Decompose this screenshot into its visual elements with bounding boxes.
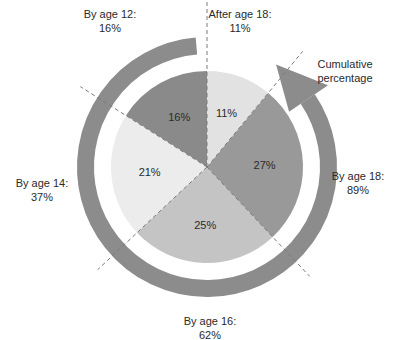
outer-label: 37%: [31, 191, 53, 203]
outer-label: By age 16:: [184, 315, 237, 327]
slice-value-label: 11%: [216, 107, 237, 119]
slice-value-label: 16%: [168, 111, 190, 123]
slice-value-label: 21%: [139, 166, 161, 178]
outer-label: By age 14:: [16, 177, 69, 189]
outer-label: By age 18:: [332, 170, 385, 182]
arrow-label-line1: Cumulative: [317, 58, 372, 70]
slice-value-label: 25%: [194, 219, 216, 231]
outer-label: 62%: [199, 329, 221, 340]
outer-label: 89%: [347, 184, 369, 196]
outer-label: By age 12:: [84, 8, 137, 20]
outer-label: After age 18:: [209, 8, 272, 20]
slice-value-label: 27%: [254, 159, 276, 171]
cumulative-pie-chart: 16%21%25%27%11% By age 12:16%By age 14:3…: [0, 0, 404, 340]
arrow-label-line2: percentage: [317, 72, 372, 84]
outer-label: 11%: [229, 22, 250, 34]
outer-label: 16%: [99, 22, 121, 34]
